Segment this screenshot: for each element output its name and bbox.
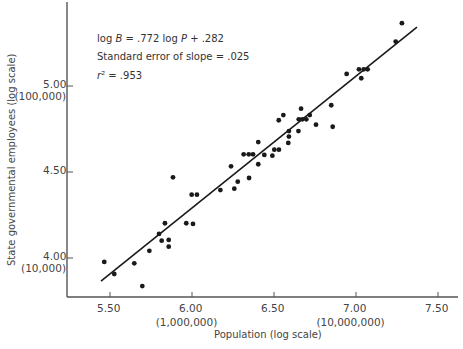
y-tick-label: 5.00 [43, 78, 66, 90]
data-point [112, 272, 117, 277]
data-point [246, 152, 251, 157]
data-point [272, 147, 277, 152]
data-point [195, 192, 200, 197]
data-point [307, 113, 312, 118]
data-point [277, 147, 282, 152]
data-point [218, 188, 223, 193]
data-point [163, 221, 168, 226]
data-point [241, 152, 246, 157]
x-tick-label: 5.50 [97, 302, 120, 314]
x-tick-sublabel: (10,000,000) [316, 316, 384, 328]
data-point [365, 67, 370, 72]
data-point [330, 124, 335, 129]
x-tick-label: 7.00 [343, 302, 366, 314]
data-point [140, 284, 145, 289]
fit-line [101, 27, 417, 281]
data-point [132, 261, 137, 266]
data-point [262, 153, 267, 158]
data-point [393, 39, 398, 44]
data-point [232, 186, 237, 191]
y-tick-label: 4.50 [43, 164, 66, 176]
data-point [166, 244, 171, 249]
data-point [159, 238, 164, 243]
data-point [251, 152, 256, 157]
data-point [286, 141, 291, 146]
data-point [270, 153, 275, 158]
data-point [102, 260, 107, 265]
data-point [329, 103, 334, 108]
y-tick-label: 4.00 [43, 250, 66, 262]
data-point [184, 221, 189, 226]
data-point [276, 118, 281, 123]
x-tick-label: 7.50 [425, 302, 448, 314]
data-point [157, 232, 162, 237]
y-axis-label: State governmental employees (log scale) [6, 54, 17, 266]
data-point [287, 129, 292, 134]
x-tick-sublabel: (1,000,000) [156, 316, 218, 328]
data-point [287, 134, 292, 139]
regression-line [101, 27, 417, 281]
axes [67, 2, 458, 297]
data-point [296, 129, 301, 134]
data-point [304, 117, 309, 122]
data-point [256, 140, 261, 145]
data-point [147, 248, 152, 253]
data-point [229, 164, 234, 169]
r-squared: r² = .953 [97, 70, 142, 81]
y-tick-sublabel: (10,000) [21, 262, 66, 274]
data-point [314, 122, 319, 127]
data-point [344, 72, 349, 77]
data-point [171, 175, 176, 180]
data-point [235, 179, 240, 184]
data-point [191, 222, 196, 227]
slope-std-error: Standard error of slope = .025 [97, 51, 250, 62]
data-point [357, 67, 362, 72]
x-tick-label: 6.50 [261, 302, 284, 314]
data-point [299, 106, 304, 111]
regression-equation: log B = .772 log P + .282 [97, 33, 224, 44]
data-point [281, 113, 286, 118]
data-point [400, 21, 405, 26]
data-point [359, 76, 364, 81]
x-axis-label: Population (log scale) [214, 329, 322, 340]
data-point [256, 162, 261, 167]
data-point [247, 176, 252, 181]
data-point [189, 192, 194, 197]
y-tick-sublabel: (100,000) [14, 90, 66, 102]
x-tick-label: 6.00 [179, 302, 202, 314]
data-point [166, 238, 171, 243]
